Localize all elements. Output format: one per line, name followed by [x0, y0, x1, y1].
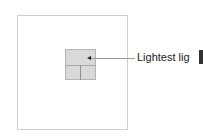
callout-label: Lightest lig [137, 51, 190, 64]
arrowhead-icon [87, 56, 91, 60]
vertical-divider [80, 65, 81, 80]
callout-leader-line [90, 58, 135, 59]
clipped-text-edge [199, 50, 203, 64]
